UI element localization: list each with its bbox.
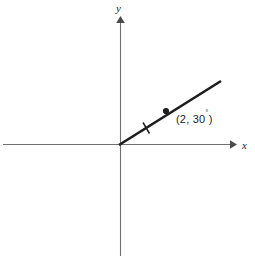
coordinate-plot-canvas: y x (2, 30°)	[0, 0, 255, 263]
arrow-up-icon	[116, 16, 125, 23]
y-axis-label: y	[115, 2, 121, 14]
point-label-suffix: )	[209, 113, 213, 125]
point-label-prefix: (2, 30	[176, 113, 205, 125]
plotted-point-dot	[163, 108, 169, 114]
point-coordinate-label: (2, 30°)	[176, 108, 213, 126]
y-axis-group	[116, 16, 125, 256]
arrow-right-icon	[230, 140, 237, 149]
x-axis-label: x	[241, 139, 247, 151]
polar-point-figure: y x (2, 30°)	[0, 0, 255, 263]
